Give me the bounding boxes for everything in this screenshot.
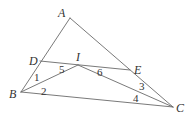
segment-de (40, 61, 130, 70)
point-label-b: B (9, 87, 17, 101)
point-label-a: A (57, 6, 66, 20)
angle-label-1: 1 (34, 71, 40, 83)
point-label-c: C (176, 101, 185, 115)
point-label-d: D (28, 54, 38, 68)
angle-label-4: 4 (133, 92, 139, 104)
point-label-e: E (133, 63, 142, 77)
angle-label-3: 3 (139, 80, 145, 92)
segment-ic (78, 65, 173, 107)
angle-label-2: 2 (41, 85, 47, 97)
point-label-i: I (75, 50, 81, 64)
angle-label-5: 5 (59, 63, 65, 75)
triangle-diagram: A D B C E I 1 2 5 6 3 4 (0, 0, 195, 117)
angle-label-6: 6 (97, 66, 103, 78)
segment-ac (70, 18, 173, 107)
